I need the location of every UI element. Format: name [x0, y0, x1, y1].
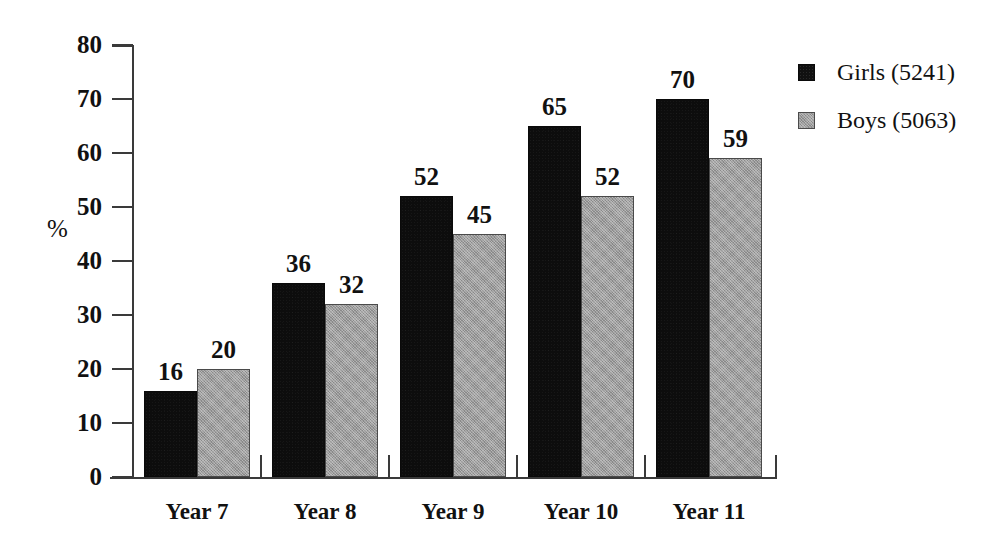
bar-value-label: 45: [453, 202, 506, 227]
bar-girls-year-11: [656, 99, 709, 477]
bar-chart: % 01020304050607080 16203632524565527059…: [0, 0, 991, 556]
legend-label-girls: Girls (5241): [837, 60, 955, 84]
bar-value-label: 32: [325, 272, 378, 297]
legend-item-boys[interactable]: Boys (5063): [798, 96, 956, 144]
x-axis-category-label: Year 11: [656, 500, 762, 523]
x-axis-category-label: Year 10: [528, 500, 634, 523]
x-axis-category-label: Year 9: [400, 500, 506, 523]
chart-legend: Girls (5241) Boys (5063): [798, 48, 956, 144]
bar-value-label: 59: [709, 126, 762, 151]
bar-value-label: 52: [400, 164, 453, 189]
bar-boys-year-11: [709, 158, 762, 477]
bar-value-label: 36: [272, 251, 325, 276]
bar-boys-year-8: [325, 304, 378, 477]
bar-value-label: 20: [197, 337, 250, 362]
bar-boys-year-10: [581, 196, 634, 477]
bar-value-label: 52: [581, 164, 634, 189]
bar-boys-year-9: [453, 234, 506, 477]
x-axis-category-label: Year 8: [272, 500, 378, 523]
bar-girls-year-9: [400, 196, 453, 477]
bar-girls-year-7: [144, 391, 197, 477]
bar-value-label: 16: [144, 359, 197, 384]
x-axis-category-label: Year 7: [144, 500, 250, 523]
bar-value-label: 70: [656, 67, 709, 92]
legend-swatch-girls-icon: [798, 64, 815, 81]
legend-label-boys: Boys (5063): [837, 108, 956, 132]
legend-item-girls[interactable]: Girls (5241): [798, 48, 956, 96]
bar-value-label: 65: [528, 94, 581, 119]
bar-boys-year-7: [197, 369, 250, 477]
bar-girls-year-8: [272, 283, 325, 477]
legend-swatch-boys-icon: [798, 112, 815, 129]
bar-girls-year-10: [528, 126, 581, 477]
